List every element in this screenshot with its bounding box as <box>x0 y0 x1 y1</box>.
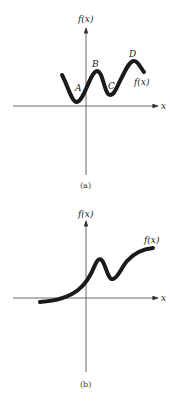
figure: f(x) x A B C D f(x) (a) f(x) x f(x) (b) <box>0 0 175 404</box>
caption-a: (a) <box>80 181 91 190</box>
curve <box>40 248 153 302</box>
y-axis-label: f(x) <box>77 14 94 24</box>
x-axis-label: x <box>161 293 166 303</box>
curve-label: f(x) <box>143 235 160 245</box>
y-axis-label: f(x) <box>77 209 94 219</box>
panel-a: f(x) x A B C D f(x) (a) <box>13 14 166 190</box>
x-axis-label: x <box>161 101 166 111</box>
point-label-a: A <box>74 83 82 93</box>
curve-label: f(x) <box>133 77 150 87</box>
curve <box>62 61 144 102</box>
caption-b: (b) <box>80 380 91 389</box>
panel-b: f(x) x f(x) (b) <box>13 209 166 389</box>
point-label-d: D <box>128 49 136 59</box>
point-label-b: B <box>91 59 99 69</box>
point-label-c: C <box>108 81 115 91</box>
